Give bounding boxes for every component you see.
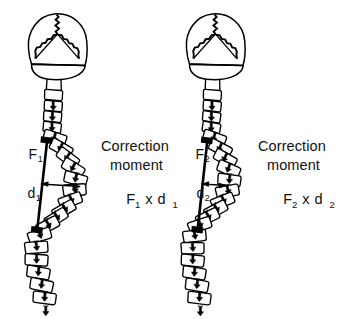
formula-left-operator: x xyxy=(145,191,152,207)
force-label-f1-subscript: 1 xyxy=(38,154,43,164)
formula-left-distance: d xyxy=(158,191,166,207)
cervical-spine-left xyxy=(43,80,63,134)
caption-line-2-left: moment xyxy=(110,158,163,173)
distance-label-d2-subscript: 2 xyxy=(205,193,210,203)
force-label-f2: F2 xyxy=(180,133,209,175)
caption-line-1-left: Correction xyxy=(101,139,169,154)
distance-label-d2-base: d xyxy=(197,185,205,201)
skull-with-cranial-sutures xyxy=(28,14,87,80)
formula-right-force: F xyxy=(283,191,292,207)
formula-right-force-subscript: 2 xyxy=(292,199,297,210)
skull-with-cranial-sutures xyxy=(186,14,245,80)
formula-right: F2xd2 xyxy=(267,177,335,221)
caption-line-1-right: Correction xyxy=(258,139,326,154)
figure-root: F1 d1 Correction moment F1xd1 F2 d2 Corr… xyxy=(0,0,340,319)
force-label-f2-subscript: 2 xyxy=(205,154,210,164)
distance-label-d1: d1 xyxy=(12,172,40,214)
distance-label-d2: d2 xyxy=(181,172,209,214)
formula-right-distance: d xyxy=(315,191,323,207)
formula-left-force-subscript: 1 xyxy=(135,199,140,210)
force-label-f1: F1 xyxy=(13,133,42,175)
formula-left-force: F xyxy=(126,191,135,207)
lumbar-curve-right xyxy=(181,228,211,316)
distance-label-d1-subscript: 1 xyxy=(36,193,41,203)
formula-left-distance-subscript: 1 xyxy=(173,199,178,210)
formula-right-distance-subscript: 2 xyxy=(330,199,335,210)
force-label-f2-base: F xyxy=(196,146,205,162)
force-label-f1-base: F xyxy=(29,146,38,162)
cervical-spine-right xyxy=(202,80,222,135)
distance-label-d1-base: d xyxy=(28,185,36,201)
caption-line-2-right: moment xyxy=(267,158,320,173)
formula-left: F1xd1 xyxy=(110,177,178,221)
lumbar-curve-left xyxy=(24,226,56,316)
formula-right-operator: x xyxy=(302,191,309,207)
